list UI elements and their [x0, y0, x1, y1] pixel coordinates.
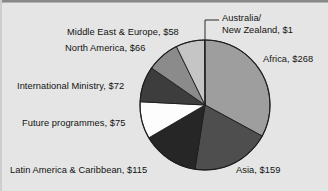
pie-chart-figure: Australia/ New Zealand, $1 Africa, $268 … — [0, 0, 328, 191]
label-asia: Asia, $159 — [236, 165, 280, 177]
label-australia-new-zealand-line2: New Zealand, $1 — [222, 25, 293, 37]
label-africa: Africa, $268 — [263, 54, 313, 66]
label-latin-america-caribbean: Latin America & Caribbean, $115 — [10, 165, 147, 177]
label-australia-new-zealand-line1: Australia/ — [222, 13, 293, 25]
pie-slices — [140, 40, 270, 170]
leader-line-australia-new-zealand — [205, 20, 219, 40]
label-north-america: North America, $66 — [65, 43, 145, 55]
label-future-programmes: Future programmes, $75 — [22, 118, 125, 130]
pie-slice-australia-new-zealand[interactable] — [205, 40, 206, 105]
label-international-ministry: International Ministry, $72 — [17, 81, 124, 93]
label-australia-new-zealand: Australia/ New Zealand, $1 — [222, 13, 293, 36]
label-middle-east-europe: Middle East & Europe, $58 — [67, 27, 179, 39]
